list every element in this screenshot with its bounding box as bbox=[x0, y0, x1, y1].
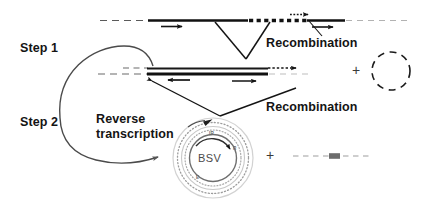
plus-sign-middle: + bbox=[352, 63, 360, 79]
bottom-linear-product bbox=[293, 153, 372, 159]
dashed-circle-product bbox=[372, 52, 410, 90]
top-junction-pointer bbox=[309, 21, 322, 36]
plus-sign-bottom: + bbox=[266, 148, 274, 164]
figure-canvas: Step 1 Step 2 Recombination Recombinatio… bbox=[0, 0, 428, 215]
step-2-label: Step 2 bbox=[20, 115, 58, 129]
v-junction-top bbox=[215, 22, 270, 59]
top-duplex-row bbox=[100, 15, 412, 28]
recombination-top-label: Recombination bbox=[266, 36, 358, 50]
diagram-vector-layer bbox=[0, 0, 428, 215]
reverse-transcription-line1: Reverse bbox=[96, 112, 145, 126]
step1-curved-arrow bbox=[60, 46, 153, 118]
v-junction-bottom-left-leg bbox=[152, 81, 220, 116]
recombination-bottom-label: Recombination bbox=[266, 100, 358, 114]
bottom-dashed-line-marker bbox=[329, 153, 340, 159]
bsv-ring-right-label: R bbox=[233, 146, 237, 151]
step-1-label: Step 1 bbox=[20, 41, 58, 55]
bsv-core-label: BSV bbox=[198, 152, 221, 164]
bsv-ring-bottom-label: E bbox=[196, 175, 199, 180]
v-junction-top-left-leg bbox=[215, 22, 246, 59]
bsv-ring-top-label: IR bbox=[209, 131, 214, 136]
middle-duplex-row bbox=[98, 68, 308, 81]
reverse-transcription-line2: transcription bbox=[96, 127, 174, 141]
